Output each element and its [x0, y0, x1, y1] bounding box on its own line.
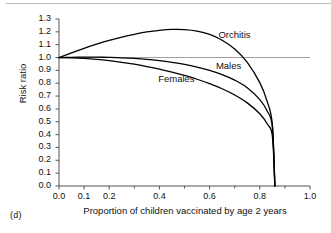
- y-tick-label: 0.4: [29, 129, 51, 139]
- y-tick-label: 1.3: [29, 13, 51, 23]
- x-axis-title: Proportion of children vaccinated by age…: [59, 205, 311, 216]
- y-axis-title: Risk ratio: [17, 24, 28, 144]
- y-tick-label: 0.5: [29, 116, 51, 126]
- y-tick-label: 0.2: [29, 154, 51, 164]
- y-tick-label: 1.2: [29, 26, 51, 36]
- y-tick-label: 1.1: [29, 39, 51, 49]
- curve-orchitis: [59, 29, 275, 186]
- x-tick-label: 0.0: [47, 191, 71, 201]
- x-tick-label: 0.1: [72, 191, 96, 201]
- y-tick-label: 0.3: [29, 141, 51, 151]
- x-tick-label: 0.6: [198, 191, 222, 201]
- y-tick-label: 0.7: [29, 90, 51, 100]
- figure-panel-d: Risk ratio Proportion of children vaccin…: [0, 0, 331, 233]
- y-tick-label: 0.8: [29, 77, 51, 87]
- curve-label-orchitis: Orchitis: [218, 29, 250, 40]
- y-tick-label: 1.0: [29, 52, 51, 62]
- y-tick-label: 0.0: [29, 180, 51, 190]
- x-tick-label: 1.0: [298, 191, 322, 201]
- y-tick-label: 0.9: [29, 64, 51, 74]
- y-tick-label: 0.6: [29, 103, 51, 113]
- x-tick-label: 0.2: [97, 191, 121, 201]
- x-tick-label: 0.4: [147, 191, 171, 201]
- curve-label-females: Females: [158, 73, 194, 84]
- x-tick-label: 0.8: [248, 191, 272, 201]
- panel-label: (d): [10, 210, 22, 220]
- curve-label-males: Males: [216, 60, 241, 71]
- y-tick-label: 0.1: [29, 167, 51, 177]
